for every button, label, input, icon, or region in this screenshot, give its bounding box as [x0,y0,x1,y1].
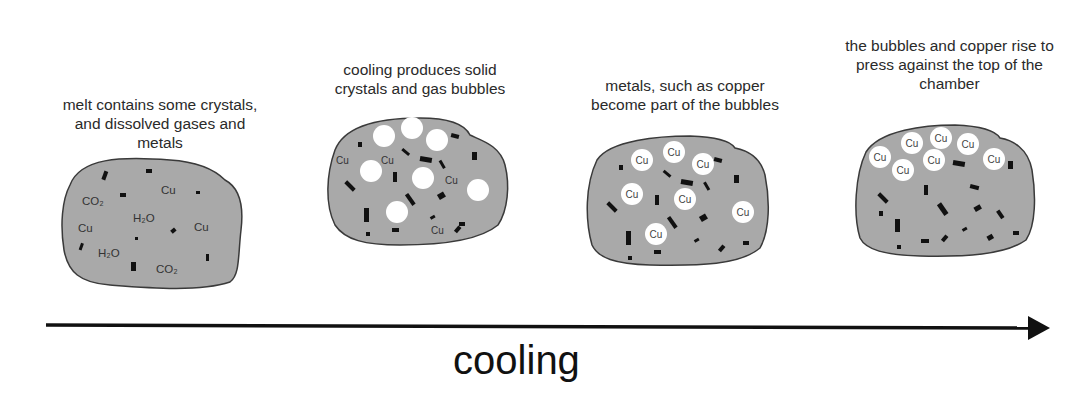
cu-bubble: Cu [906,138,919,149]
cu-bubble: Cu [679,194,692,205]
cooling-label-text: cooling [453,338,580,382]
stage-3-magma-chamber: Cu Cu Cu Cu Cu Cu Cu [587,136,768,265]
cu-bubble: Cu [668,147,681,158]
stage-4-magma-chamber: Cu Cu Cu Cu Cu Cu Cu [856,125,1035,256]
cu-label: Cu [336,155,349,166]
cu-label: Cu [194,221,209,233]
h2o-label: H₂O [98,247,120,259]
cu-label: Cu [161,184,176,196]
cu-label: Cu [445,175,458,186]
stage-2-magma-chamber: Cu Cu Cu Cu [328,117,508,245]
cu-bubble: Cu [874,152,887,163]
cu-bubble: Cu [650,229,663,240]
co2-label: CO₂ [82,195,104,207]
cu-bubble: Cu [988,154,1001,165]
cu-bubble: Cu [897,165,910,176]
cu-bubble: Cu [935,133,948,144]
cooling-label: cooling [0,338,1083,382]
co2-label: CO₂ [156,263,178,275]
cu-label: Cu [381,155,394,166]
cu-label: Cu [78,222,93,234]
diagram-canvas: CO₂ Cu H₂O Cu Cu H₂O CO₂ [0,0,1083,394]
stage-1-magma-chamber: CO₂ Cu H₂O Cu Cu H₂O CO₂ [62,158,242,288]
cu-label: Cu [431,225,444,236]
h2o-label: H₂O [133,212,155,224]
cu-bubble: Cu [697,159,710,170]
cu-bubble: Cu [737,207,750,218]
cu-bubble: Cu [928,155,941,166]
cu-bubble: Cu [962,139,975,150]
cu-bubble: Cu [636,155,649,166]
cooling-arrow [46,316,1050,340]
cu-bubble: Cu [626,189,639,200]
